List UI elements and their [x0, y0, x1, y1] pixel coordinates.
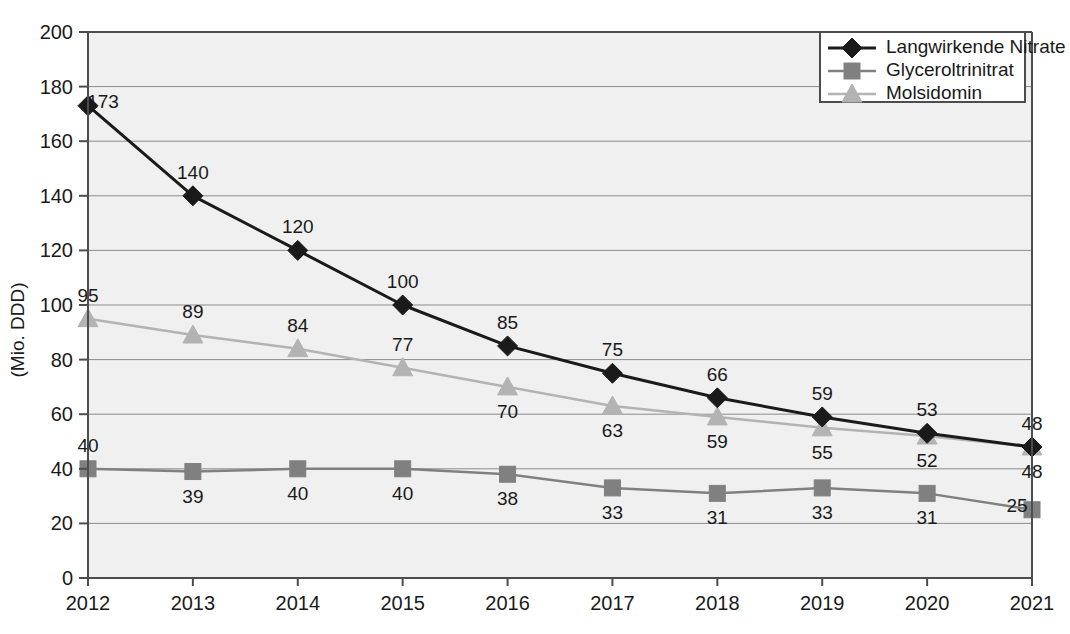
data-label-molsidomin-2019: 55	[812, 442, 833, 463]
legend-label-1: Langwirkende Nitrate	[886, 36, 1066, 57]
legend-label-3: Molsidomin	[886, 82, 982, 103]
data-label-langwirkende-nitrate-2015: 100	[387, 271, 419, 292]
y-tick-label-20: 20	[51, 512, 73, 534]
legend-label-2: Glyceroltrinitrat	[886, 59, 1014, 80]
data-label-molsidomin-2015: 77	[392, 334, 413, 355]
data-label-glyceroltrinitrat-2016: 38	[497, 488, 518, 509]
x-tick-label-2014: 2014	[276, 592, 321, 614]
line-chart: 1731401201008575665953484039404038333133…	[0, 0, 1070, 634]
y-tick-label-120: 120	[40, 239, 73, 261]
x-tick-label-2017: 2017	[590, 592, 635, 614]
data-label-molsidomin-2014: 84	[287, 315, 309, 336]
data-label-langwirkende-nitrate-2020: 53	[917, 399, 938, 420]
data-label-glyceroltrinitrat-2020: 31	[917, 507, 938, 528]
data-label-glyceroltrinitrat-2017: 33	[602, 502, 623, 523]
x-tick-label-2018: 2018	[695, 592, 740, 614]
data-label-langwirkende-nitrate-2018: 66	[707, 364, 728, 385]
y-tick-label-200: 200	[40, 21, 73, 43]
data-label-glyceroltrinitrat-2014: 40	[287, 483, 308, 504]
data-label-langwirkende-nitrate-2012: 173	[87, 91, 119, 112]
data-label-langwirkende-nitrate-2014: 120	[282, 216, 314, 237]
y-tick-label-80: 80	[51, 349, 73, 371]
y-tick-label-60: 60	[51, 403, 73, 425]
marker-glyceroltrinitrat-2015	[395, 461, 411, 477]
marker-glyceroltrinitrat-2018	[709, 485, 725, 501]
data-label-glyceroltrinitrat-2019: 33	[812, 502, 833, 523]
x-tick-label-2016: 2016	[485, 592, 530, 614]
data-label-langwirkende-nitrate-2016: 85	[497, 312, 518, 333]
y-tick-label-140: 140	[40, 185, 73, 207]
legend-square-icon	[844, 63, 860, 79]
data-label-glyceroltrinitrat-2015: 40	[392, 483, 413, 504]
data-label-langwirkende-nitrate-2017: 75	[602, 339, 623, 360]
x-axis-ticks-group: 2012201320142015201620172018201920202021	[66, 578, 1055, 614]
data-label-molsidomin-2018: 59	[707, 431, 728, 452]
data-label-molsidomin-2020: 52	[917, 450, 938, 471]
marker-glyceroltrinitrat-2014	[290, 461, 306, 477]
data-label-molsidomin-2016: 70	[497, 401, 518, 422]
marker-glyceroltrinitrat-2019	[814, 480, 830, 496]
data-label-glyceroltrinitrat-2013: 39	[182, 486, 203, 507]
x-tick-label-2013: 2013	[171, 592, 216, 614]
y-tick-label-0: 0	[62, 567, 73, 589]
marker-glyceroltrinitrat-2016	[500, 466, 516, 482]
data-label-glyceroltrinitrat-2021: 25	[1006, 495, 1027, 516]
marker-glyceroltrinitrat-2013	[185, 464, 201, 480]
x-tick-label-2015: 2015	[380, 592, 425, 614]
y-tick-label-160: 160	[40, 130, 73, 152]
marker-glyceroltrinitrat-2020	[919, 485, 935, 501]
chart-canvas: 1731401201008575665953484039404038333133…	[0, 0, 1070, 634]
x-tick-label-2019: 2019	[800, 592, 845, 614]
data-label-langwirkende-nitrate-2013: 140	[177, 162, 209, 183]
marker-glyceroltrinitrat-2017	[604, 480, 620, 496]
data-label-langwirkende-nitrate-2019: 59	[812, 383, 833, 404]
data-label-molsidomin-2013: 89	[182, 301, 203, 322]
y-tick-label-40: 40	[51, 458, 73, 480]
x-tick-label-2020: 2020	[905, 592, 950, 614]
y-tick-label-180: 180	[40, 76, 73, 98]
y-axis-title: (Mio. DDD)	[7, 283, 28, 378]
y-tick-label-100: 100	[40, 294, 73, 316]
x-tick-label-2021: 2021	[1010, 592, 1055, 614]
data-label-molsidomin-2017: 63	[602, 420, 623, 441]
data-label-glyceroltrinitrat-2018: 31	[707, 507, 728, 528]
x-tick-label-2012: 2012	[66, 592, 111, 614]
